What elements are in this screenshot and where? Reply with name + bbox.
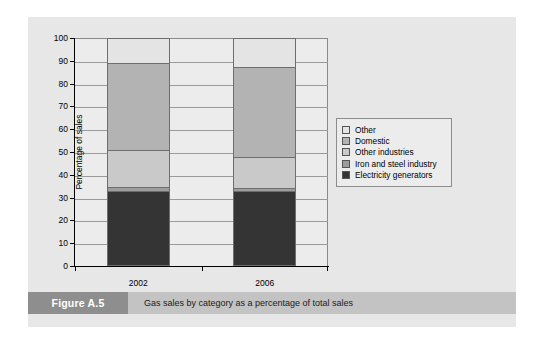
legend-item: Iron and steel industry xyxy=(342,158,445,169)
y-axis-title: Percentage of sales xyxy=(74,114,84,189)
y-tick-mark xyxy=(70,38,75,39)
y-tick-mark xyxy=(70,198,75,199)
legend-swatch xyxy=(342,137,350,145)
y-tick-mark xyxy=(70,84,75,85)
y-tick-mark xyxy=(70,106,75,107)
x-tick-label: 2006 xyxy=(255,278,274,288)
y-tick-label: 0 xyxy=(63,262,68,271)
y-tick-label: 70 xyxy=(59,102,68,111)
y-tick-label: 10 xyxy=(59,239,68,248)
legend-item: Other industries xyxy=(342,147,445,158)
legend-item: Other xyxy=(342,124,445,135)
figure-caption-text: Gas sales by category as a percentage of… xyxy=(128,292,516,314)
figure-number-tag: Figure A.5 xyxy=(28,292,128,314)
x-tick-mark xyxy=(75,266,76,271)
legend-label: Other industries xyxy=(355,148,414,156)
y-tick-label: 60 xyxy=(59,125,68,134)
stacked-bar xyxy=(233,38,296,266)
y-tick-label: 50 xyxy=(59,148,68,157)
chart-legend: OtherDomesticOther industriesIron and st… xyxy=(336,118,452,187)
legend-item: Domestic xyxy=(342,135,445,146)
bar-segment xyxy=(107,38,170,63)
y-tick-mark xyxy=(70,61,75,62)
bar-segment xyxy=(233,157,296,189)
figure-panel: 0102030405060708090100 20022006 Percenta… xyxy=(28,17,516,327)
bar-segment xyxy=(107,63,170,150)
legend-swatch xyxy=(342,126,350,134)
bar-segment xyxy=(107,150,170,188)
bar-segment xyxy=(107,191,170,266)
y-tick-mark xyxy=(70,243,75,244)
stacked-bar xyxy=(107,38,170,266)
y-tick-label: 40 xyxy=(59,171,68,180)
legend-label: Domestic xyxy=(355,137,390,145)
figure-caption-bar: Figure A.5 Gas sales by category as a pe… xyxy=(28,292,516,314)
y-tick-label: 90 xyxy=(59,57,68,66)
bar-segment xyxy=(233,67,296,157)
legend-label: Other xyxy=(355,126,376,134)
y-tick-mark xyxy=(70,220,75,221)
x-tick-mark xyxy=(327,266,328,271)
legend-label: Iron and steel industry xyxy=(355,160,437,168)
y-tick-label: 30 xyxy=(59,193,68,202)
legend-label: Electricity generators xyxy=(355,171,432,179)
legend-swatch xyxy=(342,148,350,156)
x-tick-label: 2002 xyxy=(129,278,148,288)
legend-swatch xyxy=(342,160,350,168)
y-tick-label: 80 xyxy=(59,79,68,88)
x-tick-mark xyxy=(202,266,203,271)
bar-segment xyxy=(233,188,296,190)
y-tick-label: 20 xyxy=(59,216,68,225)
figure-root: 0102030405060708090100 20022006 Percenta… xyxy=(0,0,545,344)
bar-segment xyxy=(107,187,170,190)
bar-segment xyxy=(233,191,296,266)
chart-plot-wrapper: 0102030405060708090100 20022006 Percenta… xyxy=(75,38,328,266)
y-tick-label: 100 xyxy=(54,34,68,43)
legend-swatch xyxy=(342,171,350,179)
bar-segment xyxy=(233,38,296,67)
legend-item: Electricity generators xyxy=(342,170,445,181)
